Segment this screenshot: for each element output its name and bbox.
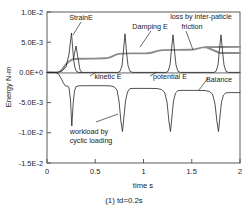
- x-tick-label-0: 0: [45, 167, 49, 176]
- y-tick-label-2: 0.0E+0: [19, 68, 43, 77]
- y-tick-label-4: -1.0E-2: [19, 128, 43, 137]
- energy-time-chart-figure: 1.0E-2 5.0E-3 0.0E+0 -5.0E-3 -1.0E-2 -1.…: [0, 0, 248, 218]
- annotation-workload-line2: cyclic loading: [70, 136, 113, 145]
- y-tick-label-0: 1.0E-2: [21, 8, 43, 17]
- series-friction-loss-curve: [47, 47, 240, 72]
- annotation-balance: Balance: [206, 75, 232, 84]
- x-tick-label-1: 0.5: [90, 167, 100, 176]
- annotation-potential-e: potential E: [153, 72, 187, 81]
- annotation-kinetic-e: kinetic E: [94, 72, 121, 81]
- x-tick-label-2: 1: [141, 167, 145, 176]
- annotation-friction-loss-line2: friction: [181, 22, 202, 31]
- leader-strain-e: [73, 22, 81, 35]
- leader-damping-e: [140, 31, 151, 47]
- annotation-workload-line1: workload by: [69, 127, 109, 136]
- x-tick-label-4: 2: [238, 167, 242, 176]
- y-tick-label-1: 5.0E-3: [21, 38, 43, 47]
- y-axis-tickmarks: [47, 12, 51, 163]
- chart-canvas: 1.0E-2 5.0E-3 0.0E+0 -5.0E-3 -1.0E-2 -1.…: [0, 0, 248, 218]
- y-tick-label-3: -5.0E-3: [19, 98, 43, 107]
- annotation-damping-e: Damping E: [132, 22, 168, 31]
- leader-friction-loss: [186, 31, 193, 50]
- y-axis-title: Energy N-m: [4, 67, 13, 108]
- y-tick-label-5: -1.5E-2: [19, 159, 43, 168]
- x-axis-title: time s: [133, 181, 153, 190]
- annotation-friction-loss-line1: loss by inter-paticle: [170, 12, 232, 21]
- x-tick-label-3: 1.5: [187, 167, 197, 176]
- x-axis-tickmarks: [47, 159, 240, 163]
- annotation-strain-e: StrainE: [69, 13, 93, 22]
- leader-workload: [96, 114, 118, 122]
- figure-caption: (1) td=0.2s: [105, 196, 143, 205]
